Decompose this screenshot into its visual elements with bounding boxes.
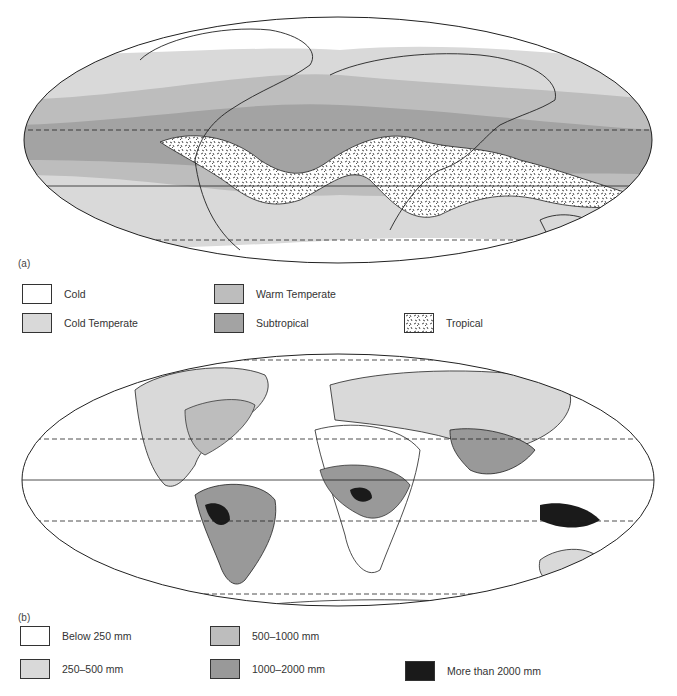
- panel-a-label: (a): [18, 258, 30, 269]
- legend-tropical: Tropical: [404, 313, 483, 333]
- legend-subtropical: Subtropical: [214, 313, 309, 333]
- legend-warm-temperate: Warm Temperate: [214, 284, 336, 304]
- swatch-subtropical: [214, 313, 244, 333]
- legend-cold-temperate: Cold Temperate: [22, 313, 138, 333]
- swatch-250-500: [20, 659, 50, 679]
- legend-500-1000: 500–1000 mm: [210, 626, 319, 646]
- swatch-1000-2000: [210, 659, 240, 679]
- climate-zones-map: [0, 0, 677, 280]
- legend-250-500: 250–500 mm: [20, 659, 123, 679]
- precipitation-map: [0, 340, 677, 615]
- swatch-500-1000: [210, 626, 240, 646]
- legend-cold: Cold: [22, 284, 86, 304]
- swatch-cold: [22, 284, 52, 304]
- swatch-cold-temperate: [22, 313, 52, 333]
- legend-1000-2000: 1000–2000 mm: [210, 659, 325, 679]
- swatch-below-250: [20, 626, 50, 646]
- swatch-warm-temperate: [214, 284, 244, 304]
- legend-over-2000: More than 2000 mm: [405, 661, 541, 681]
- panel-b-label: (b): [18, 612, 30, 623]
- legend-below-250: Below 250 mm: [20, 626, 131, 646]
- swatch-tropical: [404, 313, 434, 333]
- swatch-over-2000: [405, 661, 435, 681]
